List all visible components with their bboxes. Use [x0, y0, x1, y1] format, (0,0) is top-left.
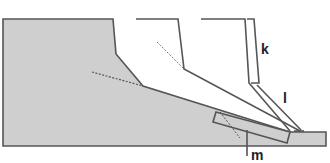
dotted-line-middle [157, 42, 184, 69]
label-l: l [283, 91, 287, 105]
base-block [3, 19, 326, 146]
label-m: m [251, 148, 263, 162]
cross-section-diagram [0, 0, 330, 163]
label-k: k [261, 42, 269, 56]
